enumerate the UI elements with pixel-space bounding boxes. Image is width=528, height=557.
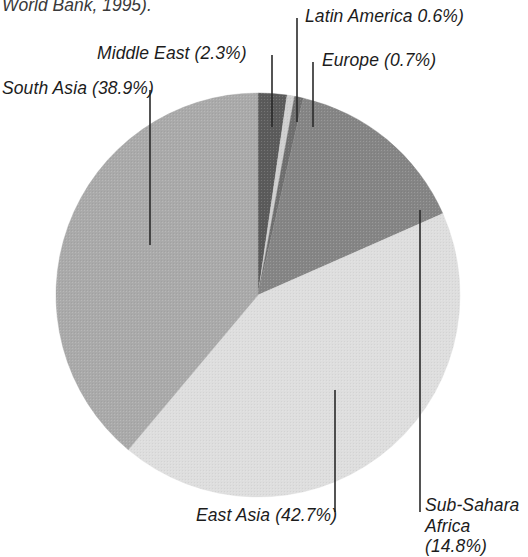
pie-label-europe: Europe (0.7%) xyxy=(322,50,436,70)
pie-halftone-texture xyxy=(56,93,460,497)
clipped-source-caption: World Bank, 1995). xyxy=(2,0,152,15)
pie-label-east-asia: East Asia (42.7%) xyxy=(196,505,337,525)
pie-label-middle-east: Middle East (2.3%) xyxy=(97,43,247,63)
pie-label-south-asia: South Asia (38.9%) xyxy=(2,78,154,98)
pie-label-sub-sahara-africa: Sub-Sahara Africa (14.8%) xyxy=(425,495,528,557)
pie-label-latin-america: Latin America 0.6%) xyxy=(305,6,464,26)
